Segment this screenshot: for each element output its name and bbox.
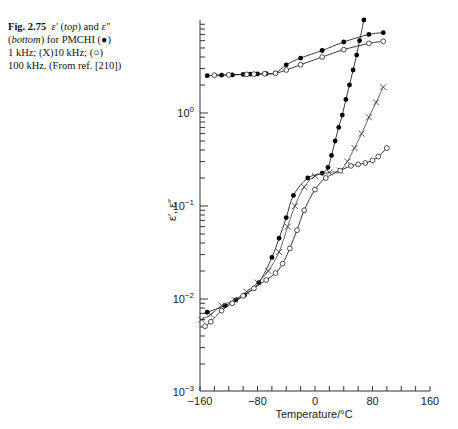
marker-open-circle [230, 301, 235, 306]
marker-open-circle [226, 72, 231, 77]
marker-cross [359, 131, 365, 137]
marker-cross [373, 99, 379, 105]
x-tick-label: 160 [421, 395, 439, 407]
marker-open-circle [376, 154, 381, 159]
marker-open-circle [302, 208, 307, 213]
marker-open-circle [381, 39, 386, 44]
series-3 [198, 84, 386, 323]
marker-open-circle [341, 47, 346, 52]
x-tick-label: 0 [312, 395, 318, 407]
marker-filled-circle [347, 83, 352, 88]
marker-filled-circle [269, 255, 274, 260]
marker-open-circle [273, 71, 278, 76]
x-axis-title: Temperature/°C [275, 408, 352, 420]
y-axis-title: ε′, ε″ [166, 199, 178, 221]
marker-open-circle [295, 228, 300, 233]
marker-filled-circle [291, 193, 296, 198]
y-tick-label: 100 [177, 105, 194, 119]
marker-open-circle [313, 187, 318, 192]
marker-cross [366, 114, 372, 120]
marker-open-circle [219, 308, 224, 313]
series-4 [203, 146, 390, 329]
marker-open-circle [284, 68, 289, 73]
axes: 10−310−210−1100−160−80080160 [173, 20, 440, 407]
x-tick-label: 80 [366, 395, 378, 407]
marker-open-circle [273, 271, 278, 276]
marker-filled-circle [284, 215, 289, 220]
marker-cross [265, 268, 271, 274]
marker-filled-circle [326, 165, 331, 170]
marker-open-circle [212, 73, 217, 78]
marker-filled-circle [344, 97, 349, 102]
marker-open-circle [262, 71, 267, 76]
marker-filled-circle [205, 73, 210, 78]
x-tick-label: −160 [188, 395, 213, 407]
marker-filled-circle [329, 153, 334, 158]
marker-filled-circle [284, 62, 289, 67]
marker-filled-circle [320, 48, 325, 53]
y-tick-label: 10−2 [173, 291, 195, 305]
marker-open-circle [363, 161, 368, 166]
marker-filled-circle [305, 176, 310, 181]
marker-filled-circle [341, 40, 346, 45]
marker-open-circle [338, 168, 343, 173]
marker-open-circle [208, 319, 213, 324]
marker-open-circle [370, 158, 375, 163]
series-2 [205, 18, 366, 315]
marker-filled-circle [354, 53, 359, 58]
marker-filled-circle [336, 125, 341, 130]
marker-cross [352, 145, 358, 151]
marker-cross [301, 184, 307, 190]
marker-cross [285, 224, 291, 230]
marker-open-circle [252, 286, 257, 291]
marker-cross [276, 249, 282, 255]
chart: 10−310−210−1100−160−80080160 Temperature… [0, 0, 458, 429]
marker-open-circle [356, 162, 361, 167]
marker-open-circle [244, 72, 249, 77]
marker-filled-circle [340, 113, 345, 118]
marker-open-circle [349, 163, 354, 168]
marker-filled-circle [351, 68, 356, 73]
marker-cross [208, 312, 214, 318]
marker-cross [292, 203, 298, 209]
marker-filled-circle [367, 32, 372, 37]
marker-open-circle [203, 324, 208, 329]
marker-open-circle [280, 261, 285, 266]
series-line [205, 148, 387, 326]
marker-open-circle [287, 246, 292, 251]
marker-open-circle [264, 278, 269, 283]
marker-open-circle [367, 41, 372, 46]
marker-filled-circle [381, 30, 386, 35]
marker-open-circle [320, 55, 325, 60]
marker-open-circle [384, 146, 389, 151]
marker-filled-circle [277, 236, 282, 241]
marker-open-circle [323, 176, 328, 181]
x-tick-label: −80 [248, 395, 267, 407]
marker-filled-circle [298, 56, 303, 61]
plot-area [198, 18, 389, 329]
marker-filled-circle [333, 139, 338, 144]
marker-filled-circle [361, 18, 366, 23]
marker-open-circle [241, 293, 246, 298]
marker-filled-circle [357, 38, 362, 43]
marker-open-circle [298, 62, 303, 67]
marker-cross [380, 84, 386, 90]
marker-open-circle [252, 72, 257, 77]
